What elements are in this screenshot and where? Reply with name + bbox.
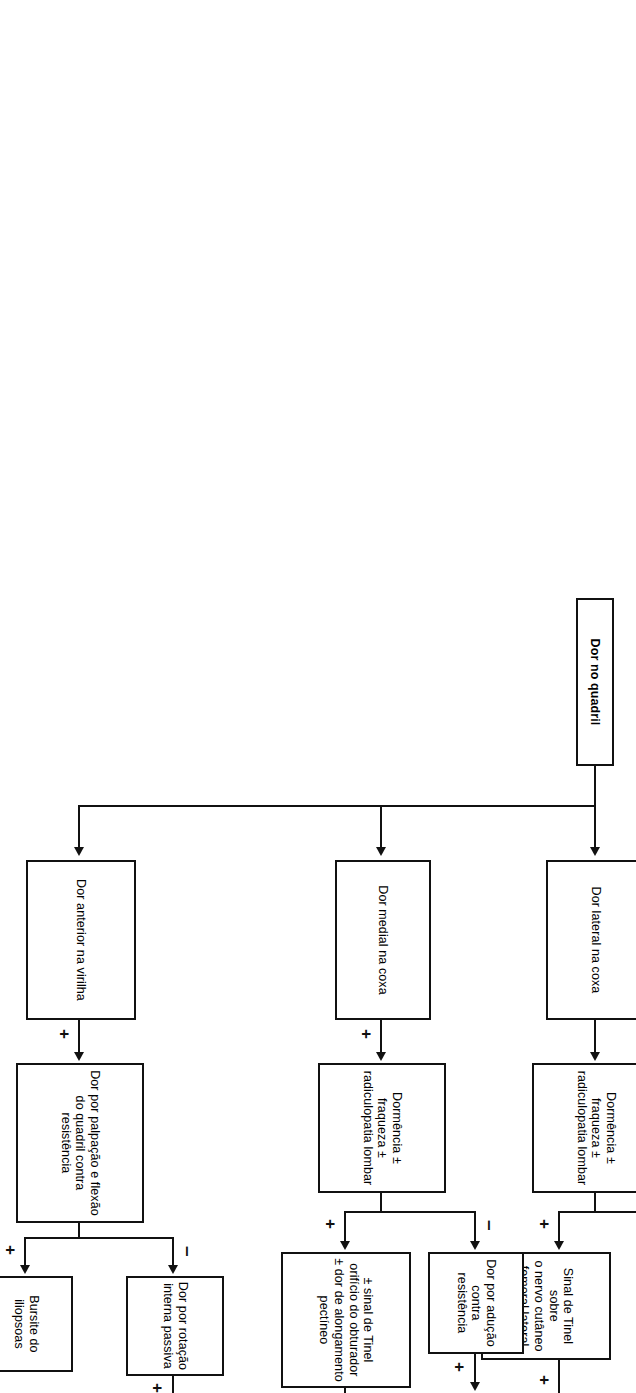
arrowhead-to-anterior xyxy=(590,847,600,856)
node-anterior-test-label: Dor por palpação e flexão do quadril con… xyxy=(58,1068,102,1218)
node-medial-neg-test: Dor por adução contra resistência xyxy=(428,1252,524,1354)
node-medial-branch: Dor medial na coxa xyxy=(335,860,431,1020)
edge-medial-pos xyxy=(344,1211,346,1243)
sign-lateral-pos-dx: + xyxy=(536,1375,553,1385)
sign-anterior-neg: – xyxy=(179,1246,198,1257)
arrowhead-medial-to-test xyxy=(376,1052,386,1061)
edge-lateral-pos-to-dx xyxy=(558,1360,560,1393)
arrowhead-anterior-neg xyxy=(168,1265,178,1274)
sign-anterior-pos: + xyxy=(2,1245,19,1255)
sign-medial-to-test: + xyxy=(358,1029,375,1039)
node-rotation-test-label: Dor por rotação interna passiva xyxy=(160,1281,190,1371)
node-medial-pos-test: ± sinal de Tinel orifício do obturador ±… xyxy=(281,1252,411,1388)
figure-page: Dor no quadril Dor lateral na coxa Dormê… xyxy=(0,0,636,1393)
edge-trunk-to-top xyxy=(594,805,596,849)
arrowhead-to-medial xyxy=(376,847,386,856)
edge-root-stem xyxy=(594,766,596,806)
edge-medial-to-test xyxy=(380,1020,382,1054)
arrowhead-lateral-pos xyxy=(554,1241,564,1250)
arrowhead-medial-neg xyxy=(470,1241,480,1250)
edge-lateral-pos xyxy=(558,1211,560,1243)
node-lateral-branch-label: Dor lateral na coxa xyxy=(589,865,604,1015)
edge-anterior-split-vertical xyxy=(24,1237,174,1239)
edge-trunk-to-anterior xyxy=(78,805,80,849)
node-root: Dor no quadril xyxy=(576,598,614,766)
edge-lateral-split-stem xyxy=(594,1193,596,1213)
edge-rotation-to-click xyxy=(172,1376,174,1393)
arrowhead-medial-pos xyxy=(340,1241,350,1250)
node-lateral-test: Dormência ± fraqueza ± radiculopatia lom… xyxy=(532,1063,636,1193)
edge-medial-split-stem xyxy=(380,1193,382,1213)
edge-medial-neg-to-dx xyxy=(474,1354,476,1384)
node-anterior-branch-label: Dor anterior na virilha xyxy=(74,865,89,1015)
node-lateral-test-label: Dormência ± fraqueza ± radiculopatia lom… xyxy=(574,1068,618,1188)
sign-medial-neg: – xyxy=(481,1220,500,1231)
sign-anterior-to-test: + xyxy=(56,1029,73,1039)
arrowhead-lateral-to-test xyxy=(590,1052,600,1061)
sign-rotation-to-click: + xyxy=(149,1383,166,1393)
node-medial-neg-test-label: Dor por adução contra resistência xyxy=(454,1257,498,1349)
edge-lateral-to-test xyxy=(594,1020,596,1054)
edge-lateral-split-vertical xyxy=(558,1211,636,1213)
node-anterior-pos-dx: Bursite do iliopsoas xyxy=(0,1276,73,1372)
node-medial-test-label: Dormência ± fraqueza ± radiculopatia lom… xyxy=(360,1068,404,1188)
edge-medial-pos-to-dx xyxy=(344,1388,346,1393)
node-lateral-branch: Dor lateral na coxa xyxy=(546,860,636,1020)
node-medial-test: Dormência ± fraqueza ± radiculopatia lom… xyxy=(318,1063,446,1193)
edge-trunk-to-medial xyxy=(380,805,382,849)
edge-medial-split-vertical xyxy=(344,1211,476,1213)
sign-lateral-pos: + xyxy=(536,1219,553,1229)
node-root-label: Dor no quadril xyxy=(588,603,603,761)
arrowhead-anterior-pos xyxy=(20,1265,30,1274)
node-anterior-pos-dx-label: Bursite do iliopsoas xyxy=(11,1281,41,1367)
edge-anterior-neg xyxy=(172,1237,174,1267)
node-lateral-pos-test-label: Sinal de Tinel sobre o nervo cutâneo fem… xyxy=(517,1257,576,1355)
node-medial-branch-label: Dor medial na coxa xyxy=(376,865,391,1015)
edge-anterior-to-test xyxy=(78,1020,80,1054)
arrowhead-anterior-to-test xyxy=(74,1052,84,1061)
arrowhead-to-lateral xyxy=(74,847,84,856)
edge-trunk-vertical xyxy=(78,805,596,807)
node-anterior-test: Dor por palpação e flexão do quadril con… xyxy=(16,1063,144,1223)
edge-medial-neg xyxy=(474,1211,476,1243)
edge-anterior-pos xyxy=(24,1237,26,1267)
sign-medial-neg-dx: + xyxy=(451,1362,468,1372)
node-rotation-test: Dor por rotação interna passiva xyxy=(126,1276,224,1376)
node-anterior-branch: Dor anterior na virilha xyxy=(26,860,136,1020)
sign-medial-pos: + xyxy=(322,1219,339,1229)
arrowhead-medial-neg-dx xyxy=(470,1382,480,1391)
flowchart-canvas: Dor no quadril Dor lateral na coxa Dormê… xyxy=(0,0,636,1393)
node-medial-pos-test-label: ± sinal de Tinel orifício do obturador ±… xyxy=(317,1257,376,1383)
